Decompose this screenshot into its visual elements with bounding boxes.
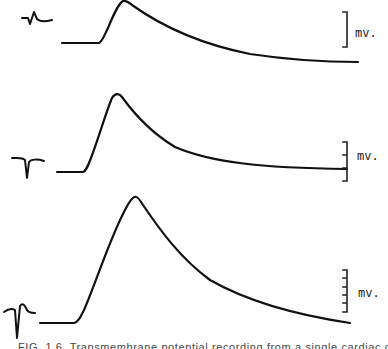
scale-bar-2 [343,142,347,181]
trace-group-1: mv. [22,1,377,62]
figure-caption: FIG. 1.6. Transmembrane potential record… [18,340,388,349]
scale-bar-3 [343,270,347,312]
stimulus-waveform-icon-2 [12,158,44,178]
action-potential-trace-2 [57,94,347,172]
stimulus-waveform-icon-1 [22,12,52,24]
action-potential-trace-3 [40,197,350,323]
action-potential-trace-1 [62,1,358,62]
unit-label-1: mv. [355,26,377,40]
stimulus-waveform-icon-3 [4,304,35,338]
unit-label-3: mv. [358,286,380,300]
trace-group-3: mv. [4,197,380,338]
scale-bar-1 [343,12,347,47]
trace-group-2: mv. [12,94,379,181]
unit-label-2: mv. [357,149,379,163]
